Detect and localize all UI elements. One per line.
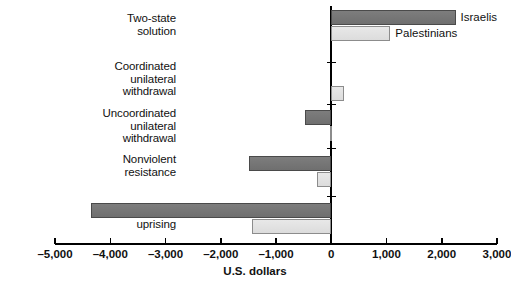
bar-israelis-4 <box>91 203 331 218</box>
plot-area <box>55 6 497 239</box>
x-tick-label-5: 0 <box>328 248 334 260</box>
x-tick-7 <box>441 238 443 244</box>
x-tick-label-8: 3,000 <box>483 248 511 260</box>
x-tick-6 <box>386 238 388 244</box>
x-tick-label-7: 2,000 <box>427 248 456 260</box>
x-tick-label-6: 1,000 <box>372 248 401 260</box>
x-tick-label-4: –1,000 <box>258 248 293 260</box>
series-label-israelis: Israelis <box>461 11 497 23</box>
category-tick-3 <box>327 196 336 197</box>
x-axis-title: U.S. dollars <box>0 265 510 277</box>
x-tick-8 <box>496 238 498 244</box>
x-tick-1 <box>110 238 112 244</box>
category-tick-0 <box>327 62 336 63</box>
category-tick-2 <box>327 148 336 149</box>
x-tick-2 <box>165 238 167 244</box>
bar-israelis-0 <box>331 10 455 25</box>
x-tick-label-0: –5,000 <box>37 248 72 260</box>
x-tick-label-2: –3,000 <box>148 248 183 260</box>
bar-palestinians-1 <box>331 86 344 101</box>
bar-palestinians-3 <box>317 172 331 187</box>
x-tick-4 <box>275 238 277 244</box>
x-tick-3 <box>220 238 222 244</box>
bar-palestinians-2 <box>330 126 332 141</box>
bar-israelis-2 <box>305 110 332 125</box>
x-tick-0 <box>54 238 56 244</box>
bar-palestinians-4 <box>252 219 331 234</box>
category-tick-1 <box>327 104 336 105</box>
bar-palestinians-0 <box>331 26 390 41</box>
bar-israelis-3 <box>249 156 331 171</box>
x-tick-5 <box>331 238 333 244</box>
series-label-palestinians: Palestinians <box>395 27 457 39</box>
x-tick-label-3: –2,000 <box>203 248 238 260</box>
x-tick-label-1: –4,000 <box>93 248 128 260</box>
